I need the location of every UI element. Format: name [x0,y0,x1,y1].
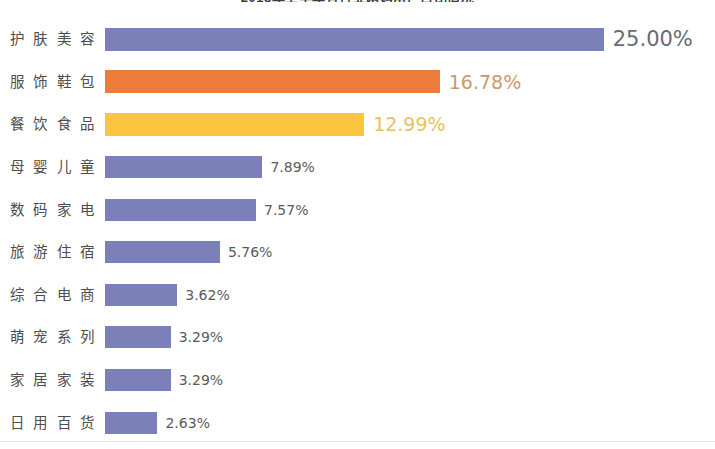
bar [105,284,177,306]
bar-row: 服饰鞋包16.78% [0,61,715,104]
bar-and-value: 7.57% [105,199,309,221]
value-label: 5.76% [228,244,272,260]
bar [105,326,171,348]
bar [105,241,220,263]
category-label: 家居家装 [10,372,94,388]
bar-row: 萌宠系列3.29% [0,316,715,359]
bar-row: 数码家电7.57% [0,188,715,231]
value-label: 2.63% [165,415,209,431]
bar [105,199,256,221]
bar-row: 护肤美容25.00% [0,18,715,61]
bar-and-value: 3.29% [105,369,223,391]
bar [105,113,364,136]
value-label: 7.89% [270,159,314,175]
bar-row: 餐饮食品12.99% [0,103,715,146]
category-label: 综合电商 [10,287,94,303]
bar-and-value: 2.63% [105,412,210,434]
category-label: 母婴儿童 [10,159,94,175]
bar [105,412,157,434]
bar-row: 综合电商3.62% [0,274,715,317]
bar [105,28,604,51]
bar-and-value: 7.89% [105,156,315,178]
bar-and-value: 16.78% [105,71,521,93]
value-label: 3.29% [179,372,223,388]
category-label: 数码家电 [10,202,94,218]
bar-row: 旅游住宿5.76% [0,231,715,274]
category-label: 萌宠系列 [10,329,94,345]
bar [105,70,440,93]
chart-plot-area: 护肤美容25.00%服饰鞋包16.78%餐饮食品12.99%母婴儿童7.89%数… [0,18,715,444]
category-label: 餐饮食品 [10,116,94,132]
value-label: 12.99% [373,113,445,135]
chart-title: 2018年上半年各行业网购用户占比情况 [0,0,715,2]
bar-row: 家居家装3.29% [0,359,715,402]
category-label: 日用百货 [10,415,94,431]
category-label: 服饰鞋包 [10,74,94,90]
bar-row: 母婴儿童7.89% [0,146,715,189]
category-label: 旅游住宿 [10,244,94,260]
bar [105,369,171,391]
page-bottom-rule [0,441,715,442]
bar-and-value: 3.62% [105,284,230,306]
value-label: 3.29% [179,329,223,345]
value-label: 7.57% [264,202,308,218]
category-label: 护肤美容 [10,31,94,47]
bar-and-value: 25.00% [105,28,693,50]
value-label: 16.78% [449,71,521,93]
bar-row: 日用百货2.63% [0,401,715,444]
bar-and-value: 12.99% [105,113,446,135]
bar [105,156,262,178]
bar-chart: 2018年上半年各行业网购用户占比情况 护肤美容25.00%服饰鞋包16.78%… [0,0,715,449]
bar-and-value: 3.29% [105,326,223,348]
value-label: 3.62% [185,287,229,303]
value-label: 25.00% [613,27,693,51]
bar-and-value: 5.76% [105,241,272,263]
